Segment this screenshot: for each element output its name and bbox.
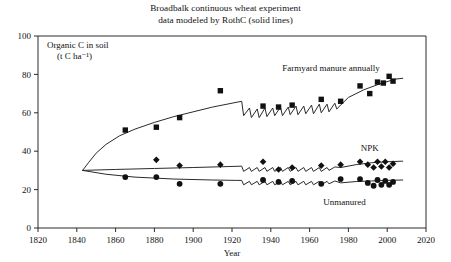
data-point-npk — [374, 158, 381, 165]
data-point-farmyard-manure-annually — [319, 97, 324, 102]
data-point-unmanured — [153, 174, 159, 180]
data-point-farmyard-manure-annually — [381, 80, 386, 85]
data-point-npk — [378, 163, 385, 170]
y-axis-label: Organic C in soil — [47, 40, 109, 50]
data-point-unmanured — [122, 174, 128, 180]
x-tick-label: 1920 — [223, 235, 242, 245]
data-point-unmanured — [338, 176, 344, 182]
y-axis-ticks: 020406080100 — [18, 31, 39, 233]
data-point-unmanured — [289, 178, 295, 184]
data-point-farmyard-manure-annually — [289, 102, 294, 107]
x-tick-label: 1940 — [262, 235, 281, 245]
data-point-unmanured — [276, 179, 282, 185]
data-point-unmanured — [390, 179, 396, 185]
series-label-farmyard-manure-annually: Farmyard manure annually — [282, 63, 380, 73]
series-label-npk: NPK — [361, 143, 380, 153]
data-point-unmanured — [371, 183, 377, 189]
y-tick-label: 20 — [22, 185, 32, 195]
data-point-farmyard-manure-annually — [177, 115, 182, 120]
data-point-npk — [275, 166, 282, 173]
series-annotations: Farmyard manure annuallyNPKUnmanured — [282, 63, 380, 207]
x-tick-label: 1880 — [145, 235, 164, 245]
model-line-farmyard-manure-annually — [83, 78, 403, 170]
data-point-farmyard-manure-annually — [367, 91, 372, 96]
data-point-farmyard-manure-annually — [260, 103, 265, 108]
x-tick-label: 2000 — [378, 235, 397, 245]
model-line-unmanured — [83, 170, 403, 184]
data-point-farmyard-manure-annually — [123, 127, 128, 132]
y-axis-units-label: (t C ha⁻¹) — [57, 51, 92, 61]
data-point-unmanured — [375, 177, 381, 183]
data-point-unmanured — [318, 181, 324, 187]
x-tick-label: 1860 — [107, 235, 126, 245]
data-point-unmanured — [217, 181, 223, 187]
y-tick-label: 0 — [27, 223, 32, 233]
data-point-unmanured — [365, 180, 371, 186]
data-point-farmyard-manure-annually — [218, 88, 223, 93]
x-tick-label: 1960 — [301, 235, 320, 245]
plot-area: 020406080100 182018401860188019001920194… — [0, 0, 451, 262]
data-point-farmyard-manure-annually — [154, 125, 159, 130]
x-axis-title: Year — [224, 248, 241, 258]
x-tick-label: 2020 — [417, 235, 436, 245]
x-axis-ticks: 1820184018601880190019201940196019802000… — [29, 228, 436, 245]
x-tick-label: 1900 — [184, 235, 203, 245]
data-point-farmyard-manure-annually — [386, 74, 391, 79]
data-point-npk — [370, 164, 377, 171]
data-point-farmyard-manure-annually — [276, 104, 281, 109]
figure: Broadbalk continuous wheat experiment da… — [0, 0, 451, 262]
x-tick-label: 1820 — [29, 235, 48, 245]
y-tick-label: 80 — [22, 70, 32, 80]
series-label-unmanured: Unmanured — [323, 197, 366, 207]
x-tick-label: 1840 — [68, 235, 87, 245]
data-point-farmyard-manure-annually — [390, 78, 395, 83]
data-point-npk — [153, 157, 160, 164]
data-point-unmanured — [260, 177, 266, 183]
model-lines — [83, 78, 403, 185]
y-tick-label: 100 — [18, 31, 32, 41]
y-tick-label: 60 — [22, 108, 32, 118]
data-point-npk — [260, 158, 267, 165]
model-line-npk — [83, 161, 403, 171]
data-point-npk — [382, 158, 389, 165]
data-point-unmanured — [357, 176, 363, 182]
y-tick-label: 40 — [22, 146, 32, 156]
data-point-unmanured — [177, 181, 183, 187]
data-point-farmyard-manure-annually — [375, 79, 380, 84]
x-tick-label: 1980 — [339, 235, 358, 245]
data-point-npk — [365, 161, 372, 168]
data-point-farmyard-manure-annually — [357, 83, 362, 88]
data-point-farmyard-manure-annually — [338, 99, 343, 104]
